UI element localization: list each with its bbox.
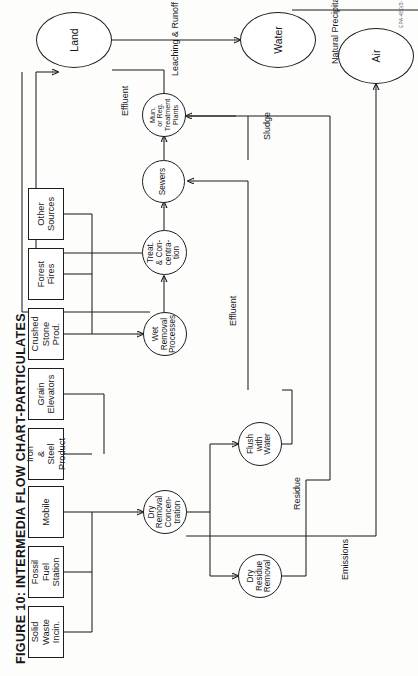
source-label: Forest Fires [36,261,57,287]
source-box-fossil-fuel-station: Fossil Fuel Station [28,546,64,598]
process-label: Dry Residue Removal [247,560,273,592]
source-label: Iron & Steel Product [25,430,67,478]
medium-label: Water [272,26,284,54]
source-box-iron-steel-product: Iron & Steel Product [28,428,64,480]
edge-label-effluent-treatment: Effluent [120,86,130,116]
process-label: Wet Removal Processes [152,315,178,353]
edge-label-effluent-sewers: Effluent [228,296,238,326]
medium-land: Land [36,12,112,68]
flow-chart-canvas: FIGURE 10: INTERMEDIA FLOW CHART-PARTICU… [0,0,418,676]
process-label: Sewers [159,168,168,195]
edge-label-leaching-and-runoff: Leaching & Runoff [170,2,180,76]
process-mun-or-reg-treatment-plants: Mun. or Reg. Treatment Plants [142,93,186,137]
process-treat-and-concentration: Treat. & Con- centra- tion [142,230,187,275]
process-label: Treat. & Con- centra- tion [147,240,181,265]
source-label: Crushed Stone Prod. [30,316,62,351]
medium-water: Water [240,12,316,68]
edge-label-natural-precipitation: Natural Precipitation [330,0,340,64]
process-label: Mun. or Reg. Treatment Plants [149,99,179,132]
edge-label-sludge: Sludge [262,112,272,140]
process-dry-removal-concentration: Dry Removal Concen- tration [143,490,187,534]
medium-air: Air [338,28,414,84]
source-label: Mobile [41,498,52,525]
figure-title: FIGURE 10: INTERMEDIA FLOW CHART-PARTICU… [14,313,28,664]
source-box-other-sources: Other Sources [28,188,64,240]
medium-label: Air [370,50,382,63]
process-flush-with-water: Flush with Water [238,422,282,466]
source-label: Grain Elevators [36,375,57,414]
medium-label: Land [68,28,80,51]
figure-page: FIGURE 10: INTERMEDIA FLOW CHART-PARTICU… [0,0,418,676]
process-dry-residue-removal: Dry Residue Removal [238,554,282,598]
source-box-mobile: Mobile [28,486,64,538]
report-code: EPA-450/3-79-003 [398,0,404,28]
source-label: Other Sources [36,197,57,231]
process-wet-removal-processes: Wet Removal Processes [143,312,187,356]
process-label: Dry Removal Concen- tration [148,496,182,528]
edge-label-residue: Residue [292,477,302,510]
edge-label-emissions: Emissions [340,539,350,580]
process-sewers: Sewers [142,160,185,203]
process-label: Flush with Water [247,433,273,455]
source-box-solid-waste-incin: Solid Waste Incin. [28,606,64,658]
source-label: Solid Waste Incin. [30,619,62,645]
source-box-crushed-stone-prod: Crushed Stone Prod. [28,308,64,360]
source-box-grain-elevators: Grain Elevators [28,368,64,420]
source-box-forest-fires: Forest Fires [28,248,64,300]
source-label: Fossil Fuel Station [30,558,62,587]
